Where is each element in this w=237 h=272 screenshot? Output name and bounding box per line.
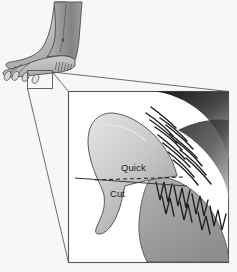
figure-canvas: Quick Cut <box>0 0 237 272</box>
leg-spot <box>62 38 65 42</box>
quick-label: Quick <box>121 163 146 173</box>
cut-label: Cut <box>110 189 125 199</box>
magnified-detail-group <box>69 91 230 263</box>
illustration-svg <box>0 0 237 272</box>
